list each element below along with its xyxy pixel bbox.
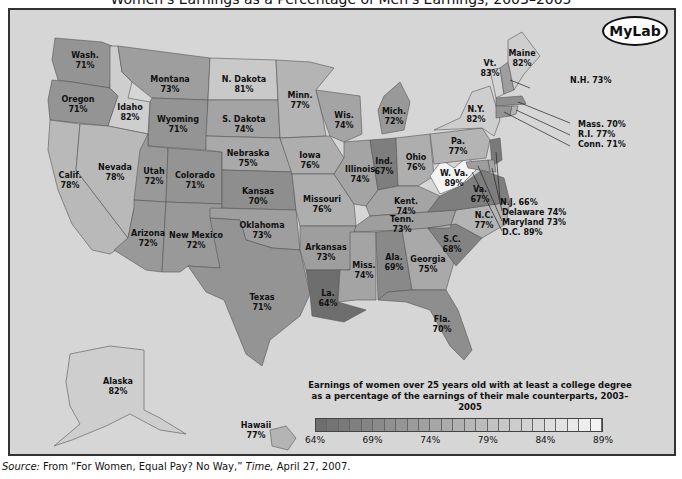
- state-value: 71%: [185, 181, 204, 190]
- legend-swatch: [556, 419, 567, 431]
- mylab-logo[interactable]: MyLab: [602, 16, 668, 46]
- callout-leader-line: [518, 102, 570, 123]
- callout-label: Conn. 71%: [578, 140, 626, 149]
- state-value: 70%: [432, 325, 451, 334]
- state-value: 73%: [252, 231, 271, 240]
- state-label: Fla.: [434, 315, 451, 324]
- callout-leader-line: [504, 112, 570, 146]
- legend-swatch: [533, 419, 544, 431]
- state-label: Vt.: [483, 59, 496, 68]
- legend-swatch: [545, 419, 556, 431]
- state-label: Wis.: [334, 111, 353, 120]
- state-value: 83%: [480, 69, 499, 78]
- state-label: Miss.: [352, 261, 375, 270]
- state-label: W. Va.: [440, 169, 468, 178]
- state-label: Idaho: [117, 103, 143, 112]
- legend-tick-label: 64%: [305, 435, 325, 445]
- state-value: 81%: [234, 85, 253, 94]
- state-hi: [270, 426, 296, 450]
- legend-swatch: [339, 419, 350, 431]
- legend-swatch: [453, 419, 464, 431]
- state-value: 64%: [318, 299, 337, 308]
- legend-swatch: [499, 419, 510, 431]
- callout-label: N.H. 73%: [570, 76, 611, 85]
- state-label: Missouri: [303, 195, 341, 204]
- state-value: 82%: [120, 113, 139, 122]
- state-value: 75%: [418, 265, 437, 274]
- state-label: Iowa: [299, 151, 320, 160]
- state-value: 82%: [466, 115, 485, 124]
- legend-tick-label: 69%: [363, 435, 383, 445]
- source-publication: Time,: [246, 461, 274, 472]
- state-label: Kent.: [394, 197, 418, 206]
- state-label: Mich.: [382, 107, 406, 116]
- state-label: Minn.: [287, 91, 312, 100]
- state-value: 71%: [75, 61, 94, 70]
- state-ma: [496, 96, 526, 106]
- source-prefix: Source:: [2, 461, 40, 472]
- state-value: 77%: [474, 221, 493, 230]
- state-label: Tenn.: [390, 215, 414, 224]
- state-value: 73%: [316, 253, 335, 262]
- state-label: Oregon: [61, 95, 94, 104]
- state-label: Colorado: [175, 171, 216, 180]
- callout-label: Delaware 74%: [502, 208, 566, 217]
- state-value: 78%: [60, 181, 79, 190]
- legend-tick-label: 74%: [420, 435, 440, 445]
- legend-swatch: [476, 419, 487, 431]
- legend-tick-label: 84%: [535, 435, 555, 445]
- state-label: Georgia: [410, 255, 445, 264]
- legend-swatch: [488, 419, 499, 431]
- state-value: 82%: [512, 59, 531, 68]
- state-value: 77%: [290, 101, 309, 110]
- callout-label: N.J. 66%: [500, 198, 538, 207]
- state-value: 73%: [160, 85, 179, 94]
- state-label: Arizona: [131, 229, 165, 238]
- state-ak: [54, 346, 186, 446]
- state-label: S. Dakota: [222, 115, 265, 124]
- legend-swatch: [362, 419, 373, 431]
- state-value: 75%: [238, 159, 257, 168]
- legend-swatch: [419, 419, 430, 431]
- legend-swatch: [568, 419, 579, 431]
- callout-label: R.I. 77%: [578, 130, 615, 139]
- legend-color-scale: [315, 418, 603, 432]
- state-label: S.C.: [443, 235, 461, 244]
- state-label: New Mexico: [169, 231, 223, 240]
- state-label: Va.: [473, 185, 487, 194]
- state-value: 67%: [374, 167, 393, 176]
- state-value: 71%: [68, 105, 87, 114]
- legend-swatch: [465, 419, 476, 431]
- legend-swatch: [408, 419, 419, 431]
- state-value: 67%: [470, 195, 489, 204]
- state-value: 78%: [105, 173, 124, 182]
- state-value: 72%: [138, 239, 157, 248]
- legend-swatch: [442, 419, 453, 431]
- state-label: Utah: [143, 167, 165, 176]
- legend-swatch: [385, 419, 396, 431]
- state-label: Kansas: [242, 187, 274, 196]
- state-label: Nevada: [98, 163, 132, 172]
- source-date: April 27, 2007.: [274, 461, 351, 472]
- state-label: Oklahoma: [239, 221, 284, 230]
- state-label: Ind.: [375, 157, 392, 166]
- state-label: Texas: [249, 293, 274, 302]
- state-pa: [430, 128, 490, 164]
- callout-label: D.C. 89%: [502, 228, 543, 237]
- state-label: Illinois: [345, 165, 375, 174]
- state-label: N.C.: [475, 211, 494, 220]
- legend-swatch: [591, 419, 602, 431]
- callout-label: Maryland 73%: [502, 218, 566, 227]
- state-label: Wash.: [71, 51, 98, 60]
- legend-swatch: [430, 419, 441, 431]
- map-frame: Wash.71%Oregon71%Calif.78%Idaho82%Nevada…: [8, 8, 676, 456]
- state-label: Wyoming: [157, 115, 199, 124]
- state-value: 69%: [384, 263, 403, 272]
- legend: Earnings of women over 25 years old with…: [305, 380, 635, 448]
- legend-tick-label: 89%: [593, 435, 613, 445]
- state-label: Alaska: [103, 377, 133, 386]
- legend-swatch: [510, 419, 521, 431]
- state-value: 74%: [234, 125, 253, 134]
- callout-label: Mass. 70%: [578, 120, 626, 129]
- legend-swatch: [522, 419, 533, 431]
